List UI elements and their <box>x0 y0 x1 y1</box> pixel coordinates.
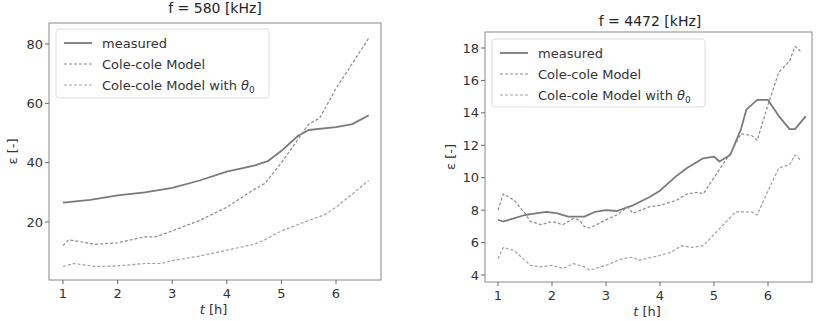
x-axis-label: t [h] <box>200 302 228 317</box>
legend-label-0: measured <box>102 36 167 51</box>
x-tick-label: 5 <box>277 286 285 301</box>
y-tick-label: 18 <box>462 41 479 56</box>
y-tick-label: 6 <box>471 235 479 250</box>
y-axis-label: ε [-] <box>443 144 458 170</box>
series-line-0 <box>498 100 806 222</box>
figure: f = 580 [kHz]12345620406080t [h]ε [-]mea… <box>0 0 816 321</box>
chart-title: f = 580 [kHz] <box>168 0 262 16</box>
legend: measuredCole-cole ModelCole-cole Model w… <box>56 29 269 98</box>
y-tick-label: 10 <box>462 170 479 185</box>
legend-label-2: Cole-cole Model with θ0 <box>102 78 255 95</box>
y-axis-label: ε [-] <box>5 139 20 165</box>
legend-label-1: Cole-cole Model <box>538 67 641 82</box>
x-tick-label: 5 <box>710 288 718 303</box>
x-tick-label: 2 <box>548 288 556 303</box>
x-tick-label: 2 <box>113 286 121 301</box>
y-tick-label: 20 <box>26 215 43 230</box>
x-tick-label: 4 <box>223 286 231 301</box>
chart-580khz: f = 580 [kHz]12345620406080t [h]ε [-]mea… <box>5 0 381 317</box>
x-tick-label: 6 <box>764 288 772 303</box>
y-tick-label: 16 <box>462 73 479 88</box>
legend-label-2: Cole-cole Model with θ0 <box>538 88 691 105</box>
y-tick-label: 40 <box>26 155 43 170</box>
legend-label-0: measured <box>538 46 603 61</box>
y-tick-label: 4 <box>471 268 479 283</box>
y-tick-label: 80 <box>26 37 43 52</box>
x-tick-label: 3 <box>602 288 610 303</box>
legend-label-1: Cole-cole Model <box>102 57 205 72</box>
y-tick-label: 60 <box>26 96 43 111</box>
y-tick-label: 14 <box>462 105 479 120</box>
y-tick-label: 12 <box>462 138 479 153</box>
chart-title: f = 4472 [kHz] <box>599 13 702 29</box>
series-line-0 <box>63 115 369 203</box>
x-tick-label: 1 <box>494 288 502 303</box>
legend: measuredCole-cole ModelCole-cole Model w… <box>492 39 705 107</box>
x-tick-label: 1 <box>59 286 67 301</box>
x-tick-label: 4 <box>656 288 664 303</box>
x-axis-label: t [h] <box>633 304 661 319</box>
x-tick-label: 3 <box>168 286 176 301</box>
series-line-2 <box>63 181 369 267</box>
y-tick-label: 8 <box>471 203 479 218</box>
chart-4472khz: f = 4472 [kHz]1234564681012141618t [h]ε … <box>443 13 812 319</box>
x-tick-label: 6 <box>332 286 340 301</box>
